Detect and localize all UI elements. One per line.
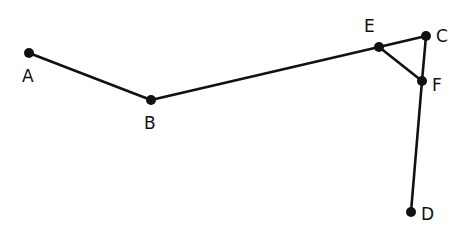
node-label-d: D [421, 204, 434, 224]
node-label-a: A [22, 66, 34, 86]
edge-a-b [29, 53, 151, 100]
node-b [146, 95, 156, 105]
node-label-c: C [436, 26, 448, 46]
edge-b-e [151, 47, 379, 100]
node-c [421, 31, 431, 41]
node-e [374, 42, 384, 52]
edge-e-c [379, 36, 426, 47]
edges-group [29, 36, 426, 212]
node-label-e: E [364, 16, 375, 36]
edge-f-d [411, 81, 422, 212]
node-d [406, 207, 416, 217]
node-a [24, 48, 34, 58]
edge-e-f [379, 47, 422, 81]
edge-c-f [422, 36, 426, 81]
node-f [417, 76, 427, 86]
nodes-group [24, 31, 431, 217]
graph-diagram: ABECFD [0, 0, 471, 231]
node-label-f: F [432, 75, 442, 95]
node-label-b: B [144, 113, 156, 133]
